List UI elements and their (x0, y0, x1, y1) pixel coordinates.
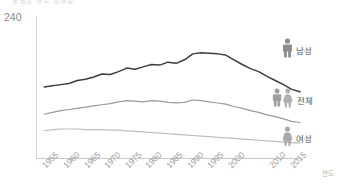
x-tick-2015: 2015 (288, 150, 308, 170)
male-female-pair-icon (272, 88, 294, 112)
x-tick-1965: 1965 (82, 150, 102, 170)
legend-item-total[interactable]: 전체 (272, 88, 313, 112)
legend-label-female: 여성 (296, 132, 312, 144)
legend-item-female[interactable]: 여성 (282, 126, 312, 150)
x-tick-1975: 1975 (123, 150, 143, 170)
x-tick-2010: 2010 (267, 150, 287, 170)
legend-label-total: 전체 (297, 94, 313, 106)
female-person-icon (282, 126, 293, 150)
x-tick-1985: 1985 (164, 150, 184, 170)
x-tick-1995: 1995 (205, 150, 225, 170)
male-person-icon (282, 38, 293, 62)
legend-label-male: 남성 (296, 44, 312, 56)
x-axis-name-label: 연도 (322, 168, 334, 178)
x-tick-1960: 1960 (61, 150, 81, 170)
legend-item-male[interactable]: 남성 (282, 38, 312, 62)
x-tick-1970: 1970 (102, 150, 122, 170)
x-tick-1980: 1980 (143, 150, 163, 170)
x-tick-1990: 1990 (185, 150, 205, 170)
x-tick-2000: 2000 (226, 150, 246, 170)
chart-container: 통계로 보는 흡연율 240 1955196019651970197519801… (0, 0, 338, 189)
x-tick-1955: 1955 (40, 150, 60, 170)
